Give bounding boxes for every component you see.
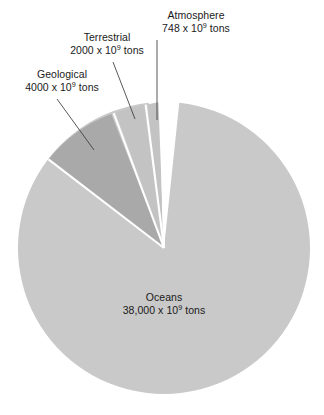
slice-label-terrestrial-value: 2000 x 109 tons — [46, 44, 168, 57]
geological-value-suffix: tons — [76, 81, 99, 93]
pie-slices — [18, 102, 310, 394]
slice-label-atmosphere-name: Atmosphere — [141, 9, 251, 22]
slice-label-oceans: Oceans 38,000 x 109 tons — [99, 291, 229, 317]
atmosphere-value-suffix: tons — [207, 22, 230, 34]
oceans-value-suffix: tons — [182, 304, 205, 316]
slice-label-atmosphere: Atmosphere 748 x 109 tons — [141, 9, 251, 35]
terrestrial-value-prefix: 2000 x 10 — [70, 44, 117, 56]
slice-label-oceans-name: Oceans — [99, 291, 229, 304]
pie-chart-figure: Geological 4000 x 109 tons Terrestrial 2… — [0, 0, 324, 415]
slice-label-geological-value: 4000 x 109 tons — [2, 81, 122, 94]
atmosphere-value-prefix: 748 x 10 — [162, 22, 203, 34]
oceans-value-prefix: 38,000 x 10 — [123, 304, 178, 316]
slice-label-geological-name: Geological — [2, 68, 122, 81]
geological-value-prefix: 4000 x 10 — [25, 81, 72, 93]
slice-label-atmosphere-value: 748 x 109 tons — [141, 22, 251, 35]
pie-chart-canvas — [0, 0, 324, 415]
slice-label-geological: Geological 4000 x 109 tons — [2, 68, 122, 94]
terrestrial-value-suffix: tons — [121, 44, 144, 56]
slice-label-oceans-value: 38,000 x 109 tons — [99, 304, 229, 317]
